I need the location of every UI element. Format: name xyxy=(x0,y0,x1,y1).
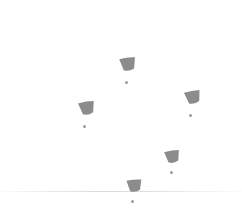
marker-dot-icon xyxy=(131,200,134,203)
wedge-icon[interactable] xyxy=(77,100,97,118)
scene-canvas xyxy=(0,0,242,224)
wedge-icon[interactable] xyxy=(118,56,138,73)
marker-dot-icon xyxy=(189,114,192,117)
horizon-line xyxy=(0,191,242,192)
marker-dot-icon xyxy=(83,125,86,128)
wedge-icon[interactable] xyxy=(163,149,182,166)
marker-dot-icon xyxy=(170,171,173,174)
wedge-icon[interactable] xyxy=(125,178,143,194)
marker-dot-icon xyxy=(125,81,128,84)
wedge-icon[interactable] xyxy=(183,88,204,106)
